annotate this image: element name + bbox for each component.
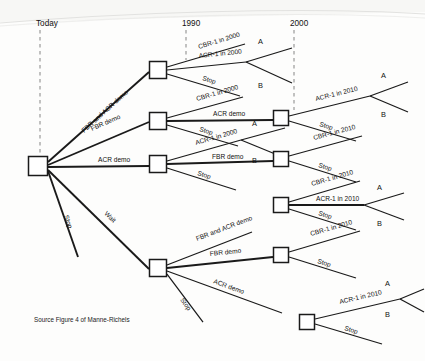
decision-node — [274, 248, 289, 263]
decision-tree-figure: Today19902000 ABABABABAB FBR and ACR dem… — [0, 0, 425, 361]
scan-artifacts — [0, 0, 425, 26]
branch-label: FBR and ACR demo — [80, 88, 129, 133]
terminal-branch-b — [246, 62, 292, 83]
branch-label: Stop — [62, 214, 74, 230]
tree-branch — [289, 96, 370, 116]
decision-node — [274, 198, 289, 213]
decision-tree-canvas: Today19902000 ABABABABAB FBR and ACR dem… — [0, 0, 425, 361]
terminal-label-a: A — [377, 183, 382, 192]
terminal-branch-b — [400, 299, 424, 312]
branch-label: ACR-1 in 2000 — [198, 47, 242, 59]
timeline-axis: Today19902000 — [36, 19, 309, 155]
source-note: Source Figure 4 of Manne-Richels — [34, 316, 130, 324]
terminal-branch-a — [241, 128, 285, 140]
branch-label: ACR-1 in 2010 — [316, 195, 360, 202]
branch-label: FBR demo — [212, 153, 244, 160]
branch-labels: FBR and ACR demoFBR demoACR demoStopWait… — [62, 31, 383, 336]
decision-node — [150, 113, 167, 130]
branch-label: ACR demo — [213, 110, 246, 117]
branch-label: Stop — [316, 257, 332, 269]
timeline-label: 2000 — [290, 19, 309, 28]
branch-label: Wait — [103, 210, 117, 224]
timeline-label: Today — [36, 19, 59, 28]
branch-label: ACR-1 in 2010 — [315, 85, 359, 102]
terminal-branch-a — [246, 48, 292, 62]
decision-node — [150, 260, 167, 277]
terminal-branch-a — [370, 82, 408, 96]
decision-node — [150, 156, 167, 173]
terminal-label-b: B — [385, 310, 390, 319]
terminal-label-b: B — [258, 81, 263, 90]
tree-branch — [167, 161, 273, 164]
decision-node — [274, 111, 289, 126]
branch-label: Stop — [201, 74, 217, 86]
tree-branch — [167, 120, 273, 121]
decision-nodes — [29, 62, 315, 330]
terminal-branch-a — [364, 193, 404, 205]
branch-label: FBR and ACR demo — [195, 214, 254, 242]
terminal-label-a: A — [381, 71, 386, 80]
decision-node — [300, 315, 315, 330]
branch-label: CBR-1 in 2000 — [195, 83, 239, 102]
terminal-label-b: B — [252, 156, 257, 165]
branch-label: ACR demo — [213, 277, 246, 295]
terminal-label-a: A — [252, 119, 257, 128]
tree-branch — [48, 170, 149, 269]
terminal-label-a: A — [385, 279, 390, 288]
tree-branch — [289, 136, 362, 156]
terminal-branch-b — [364, 205, 404, 220]
terminal-branch-a — [400, 289, 424, 299]
branch-label: ACR-1 in 2010 — [339, 288, 383, 305]
terminal-branch-b — [370, 96, 408, 112]
terminal-label-b: B — [381, 110, 386, 119]
branch-label: Stop — [178, 296, 193, 312]
terminal-label-a: A — [258, 37, 263, 46]
branch-label: FBR demo — [209, 247, 241, 257]
timeline-label: 1990 — [182, 19, 201, 28]
decision-node — [150, 62, 167, 79]
tree-branch — [48, 166, 149, 167]
decision-node — [29, 157, 48, 176]
branch-label: ACR demo — [98, 156, 131, 163]
decision-node — [274, 152, 289, 167]
terminal-label-b: B — [377, 219, 382, 228]
tree-branch — [289, 231, 360, 252]
